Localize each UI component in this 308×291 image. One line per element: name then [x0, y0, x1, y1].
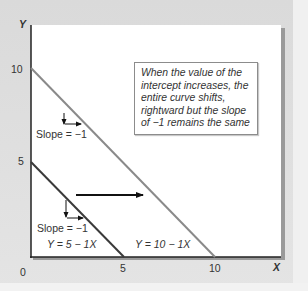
- x-axis-label: X: [273, 261, 280, 273]
- y-tick-5: 5: [18, 155, 24, 167]
- origin-label: 0: [20, 266, 26, 278]
- y-axis-label: Y: [19, 18, 26, 30]
- equation-upper: Y = 10 − 1X: [135, 238, 190, 250]
- annotation-note: When the value of the intercept increase…: [134, 62, 258, 135]
- slope-label-lower: Slope = −1: [37, 222, 88, 234]
- y-tick-10: 10: [11, 63, 23, 75]
- equation-lower: Y = 5 − 1X: [47, 238, 96, 250]
- slope-label-upper: Slope = −1: [36, 128, 87, 140]
- x-tick-10: 10: [209, 262, 221, 274]
- x-tick-5: 5: [120, 262, 126, 274]
